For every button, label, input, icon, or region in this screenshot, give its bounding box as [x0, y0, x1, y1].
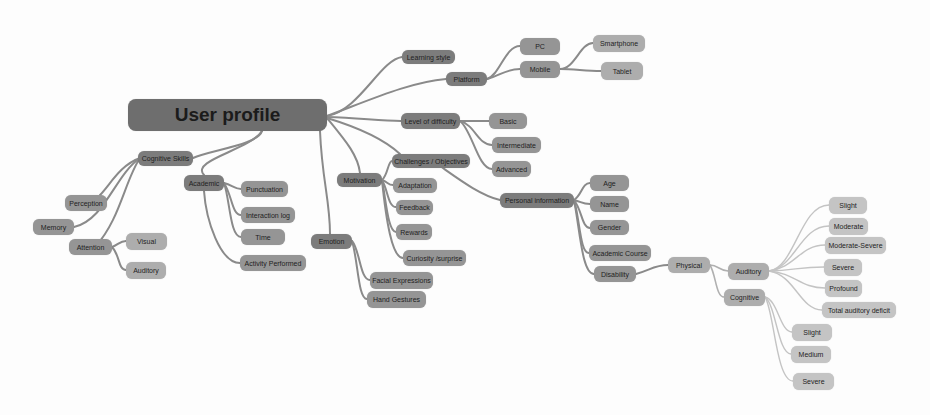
- node-label: Personal information: [505, 197, 569, 204]
- node-label: Mobile: [530, 66, 551, 73]
- node-label: Challenges / Objectives: [394, 158, 468, 165]
- node-label: Level of difficulty: [405, 118, 457, 125]
- node-label: Activity Performed: [245, 260, 302, 267]
- node-label: Adaptation: [398, 182, 431, 189]
- node-gender[interactable]: Gender: [590, 220, 629, 235]
- node-label: Slight: [839, 202, 857, 209]
- node-aud-moderate[interactable]: Moderate: [829, 218, 868, 235]
- node-label: Total auditory deficit: [828, 307, 890, 314]
- node-feedback[interactable]: Feedback: [396, 200, 433, 215]
- node-punctuation[interactable]: Punctuation: [241, 181, 288, 197]
- node-personal-information[interactable]: Personal information: [500, 193, 574, 208]
- node-aud-severe[interactable]: Severe: [824, 259, 862, 276]
- mind-map-canvas: User profile Cognitive Skills Academic E…: [0, 0, 930, 415]
- node-tablet[interactable]: Tablet: [601, 62, 643, 80]
- node-attention[interactable]: Attention: [69, 239, 112, 255]
- node-level-of-difficulty[interactable]: Level of difficulty: [401, 113, 460, 129]
- node-cognitive-skills[interactable]: Cognitive Skills: [138, 151, 193, 166]
- node-label: Academic: [189, 180, 220, 187]
- root-node-label: User profile: [175, 104, 281, 126]
- root-node-user-profile[interactable]: User profile: [128, 99, 327, 131]
- node-cog-medium[interactable]: Medium: [791, 346, 831, 363]
- node-label: Tablet: [613, 68, 632, 75]
- node-memory[interactable]: Memory: [33, 219, 74, 235]
- node-interaction-log[interactable]: Interaction log: [241, 207, 295, 223]
- node-label: Basic: [499, 118, 516, 125]
- node-label: Emotion: [319, 238, 345, 245]
- node-label: Rewards: [400, 229, 428, 236]
- node-mobile[interactable]: Mobile: [520, 61, 560, 78]
- node-learning-style[interactable]: Learning style: [402, 50, 455, 64]
- node-cog-severe[interactable]: Severe: [793, 373, 834, 390]
- node-basic[interactable]: Basic: [489, 113, 527, 129]
- node-label: Perception: [69, 200, 102, 207]
- node-label: Severe: [802, 378, 824, 385]
- node-disability[interactable]: Disability: [594, 266, 636, 282]
- node-hand-gestures[interactable]: Hand Gestures: [367, 291, 426, 308]
- node-label: Gender: [598, 224, 621, 231]
- node-label: Attention: [77, 244, 105, 251]
- node-label: Hand Gestures: [373, 296, 420, 303]
- node-aud-total-deficit[interactable]: Total auditory deficit: [822, 302, 896, 318]
- node-advanced[interactable]: Advanced: [492, 161, 531, 177]
- node-label: Auditory: [736, 268, 762, 275]
- node-label: Time: [255, 234, 270, 241]
- node-time[interactable]: Time: [241, 229, 285, 245]
- node-platform[interactable]: Platform: [446, 72, 487, 86]
- node-motivation[interactable]: Motivation: [337, 173, 382, 187]
- node-smartphone[interactable]: Smartphone: [593, 35, 645, 52]
- node-label: Medium: [799, 351, 824, 358]
- node-intermediate[interactable]: Intermediate: [492, 137, 541, 153]
- node-label: Intermediate: [497, 142, 536, 149]
- node-label: Moderate-Severe: [828, 242, 882, 249]
- node-visual[interactable]: Visual: [126, 233, 167, 250]
- node-label: Visual: [137, 238, 156, 245]
- node-label: Facial Expressions: [372, 277, 431, 284]
- node-cog-slight[interactable]: Slight: [792, 324, 832, 341]
- node-label: Name: [600, 201, 619, 208]
- node-activity-performed[interactable]: Activity Performed: [240, 255, 306, 271]
- node-label: Cognitive Skills: [142, 155, 189, 162]
- node-age[interactable]: Age: [590, 175, 629, 191]
- node-label: Platform: [453, 76, 479, 83]
- node-adaptation[interactable]: Adaptation: [393, 178, 437, 193]
- node-rewards[interactable]: Rewards: [396, 224, 432, 240]
- node-label: Age: [603, 180, 615, 187]
- node-label: Feedback: [399, 204, 430, 211]
- node-label: Severe: [832, 264, 854, 271]
- node-physical-auditory[interactable]: Auditory: [728, 263, 769, 280]
- node-label: Moderate: [834, 223, 864, 230]
- node-label: Slight: [803, 329, 821, 336]
- node-attention-auditory[interactable]: Auditory: [126, 262, 166, 279]
- node-physical[interactable]: Physical: [668, 257, 710, 273]
- node-physical-cognitive[interactable]: Cognitive: [724, 289, 765, 306]
- node-curiosity-surprise[interactable]: Curiosity /surprise: [403, 250, 466, 266]
- node-perception[interactable]: Perception: [65, 195, 107, 211]
- node-aud-profound[interactable]: Profound: [825, 280, 862, 297]
- node-label: Interaction log: [246, 212, 290, 219]
- node-name[interactable]: Name: [590, 196, 629, 212]
- node-label: Academic Course: [592, 250, 647, 257]
- node-facial-expressions[interactable]: Facial Expressions: [370, 272, 433, 289]
- node-label: Auditory: [133, 267, 159, 274]
- node-academic[interactable]: Academic: [184, 175, 224, 191]
- node-label: Physical: [676, 262, 702, 269]
- node-emotion[interactable]: Emotion: [311, 234, 352, 249]
- node-label: Cognitive: [730, 294, 759, 301]
- node-academic-course[interactable]: Academic Course: [589, 245, 651, 261]
- node-label: Memory: [41, 224, 66, 231]
- node-label: PC: [535, 43, 545, 50]
- node-label: Motivation: [344, 177, 376, 184]
- node-pc[interactable]: PC: [520, 38, 560, 55]
- node-aud-slight[interactable]: Slight: [829, 197, 867, 214]
- node-label: Curiosity /surprise: [406, 255, 462, 262]
- node-label: Profound: [829, 285, 857, 292]
- node-label: Learning style: [407, 54, 451, 61]
- node-label: Advanced: [496, 166, 527, 173]
- node-challenges-objectives[interactable]: Challenges / Objectives: [392, 154, 470, 168]
- node-label: Smartphone: [600, 40, 638, 47]
- node-aud-moderate-severe[interactable]: Moderate-Severe: [825, 237, 886, 254]
- node-label: Punctuation: [246, 186, 283, 193]
- node-label: Disability: [601, 271, 629, 278]
